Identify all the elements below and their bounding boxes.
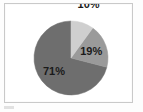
screenshot-root: 10% 19% 71% xyxy=(0,0,143,112)
chart-frame: 10% 19% 71% xyxy=(4,3,133,103)
pie-chart-plot-area: 10% 19% 71% xyxy=(5,4,132,102)
pie-chart-svg: 10% 19% 71% xyxy=(5,4,134,104)
pie-label-10: 10% xyxy=(78,4,100,10)
pie-label-19: 19% xyxy=(80,45,102,57)
pie-label-71: 71% xyxy=(43,65,65,77)
legend-swatch-remnant xyxy=(4,106,14,109)
